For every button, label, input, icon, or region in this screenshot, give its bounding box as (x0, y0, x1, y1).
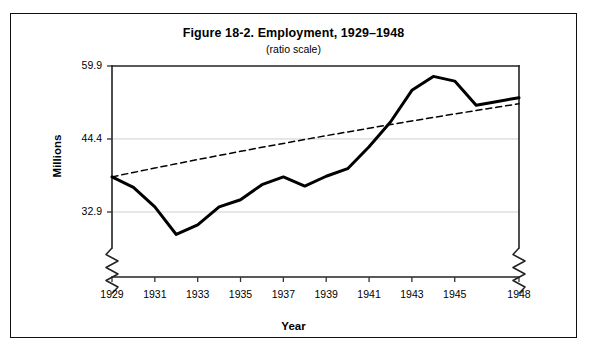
x-tick-label: 1943 (392, 288, 432, 300)
axis-break-zigzag (106, 248, 118, 294)
axis-break-zigzag (513, 248, 525, 294)
x-tick-label: 1931 (135, 288, 175, 300)
y-tick-label: 32.9 (58, 205, 102, 217)
data-series (112, 76, 519, 234)
x-tick-label: 1935 (221, 288, 261, 300)
plot-box-frame (112, 66, 519, 277)
axis-ticks (107, 66, 519, 282)
x-tick-label: 1937 (263, 288, 303, 300)
x-tick-label: 1948 (499, 288, 539, 300)
series-line-employment (112, 76, 519, 234)
gridlines (112, 139, 519, 212)
axis-break-marks (106, 248, 525, 294)
series-line-trend (112, 104, 519, 177)
x-tick-label: 1941 (349, 288, 389, 300)
x-tick-label: 1933 (178, 288, 218, 300)
x-tick-label: 1939 (306, 288, 346, 300)
x-tick-label: 1929 (92, 288, 132, 300)
y-tick-label: 44.4 (58, 132, 102, 144)
y-tick-label: 59.9 (58, 59, 102, 71)
chart-plot (0, 0, 589, 358)
x-tick-label: 1945 (435, 288, 475, 300)
